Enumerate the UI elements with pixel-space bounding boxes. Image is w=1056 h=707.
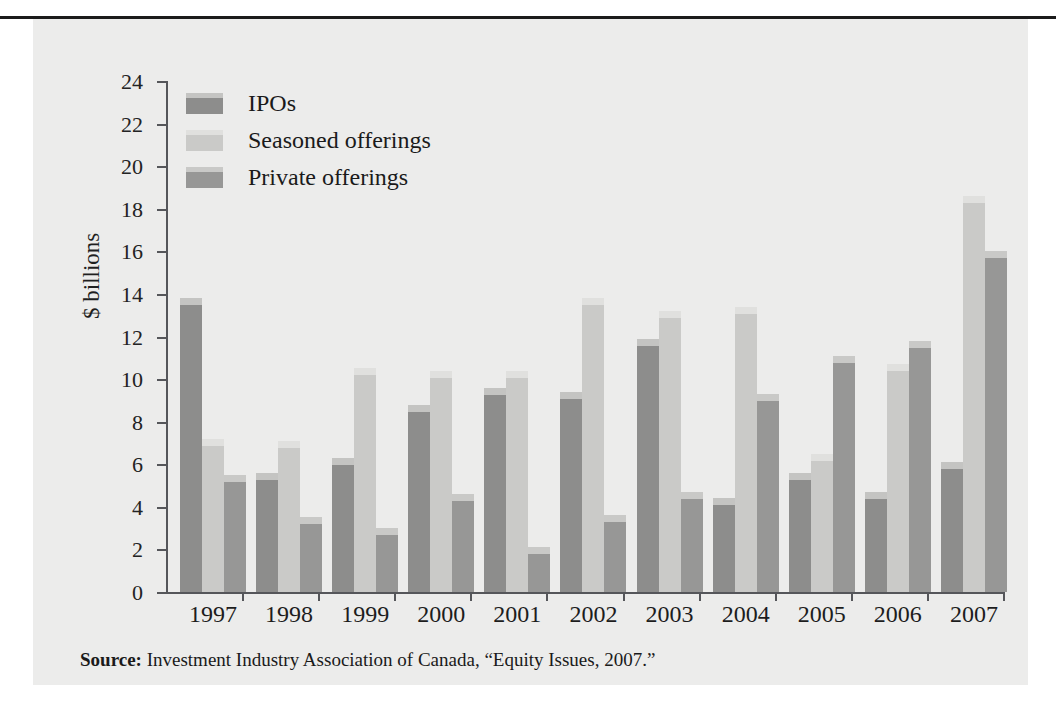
bar-2005-ipos — [789, 473, 811, 592]
bar-body — [909, 348, 931, 592]
x-tick-2000 — [470, 592, 472, 601]
bar-2000-private-offerings — [452, 494, 474, 592]
bar-body — [332, 465, 354, 592]
x-axis-label-2003: 2003 — [646, 601, 694, 628]
y-tick-label-10: 10 — [121, 367, 143, 393]
bar-body — [256, 480, 278, 592]
bar-body — [180, 305, 202, 592]
legend-swatch-icon — [186, 130, 223, 151]
x-tick-2007 — [1003, 592, 1005, 601]
y-tick-20: 20 — [157, 166, 166, 168]
bar-1997-ipos — [180, 298, 202, 592]
bar-body — [452, 501, 474, 592]
bar-body — [484, 395, 506, 592]
bar-group-2006 — [865, 81, 931, 592]
figure-container: $ billions 024681012141618202224 1997199… — [0, 0, 1056, 707]
bar-body — [300, 524, 322, 592]
bar-body — [963, 203, 985, 592]
legend-label: Private offerings — [248, 164, 408, 191]
chart-panel: $ billions 024681012141618202224 1997199… — [33, 19, 1028, 685]
y-tick-label-22: 22 — [121, 112, 143, 138]
legend-item-private-offerings[interactable]: Private offerings — [186, 159, 431, 196]
y-tick-label-18: 18 — [121, 197, 143, 223]
x-axis-label-1998: 1998 — [265, 601, 313, 628]
bar-2001-private-offerings — [528, 547, 550, 592]
y-tick-label-16: 16 — [121, 239, 143, 265]
y-tick-label-0: 0 — [132, 580, 143, 606]
y-tick-0: 0 — [157, 592, 166, 594]
legend-label: IPOs — [248, 90, 296, 117]
bar-body — [582, 305, 604, 592]
x-axis-label-2006: 2006 — [874, 601, 922, 628]
bar-1997-private-offerings — [224, 475, 246, 592]
bar-body — [202, 446, 224, 592]
legend-item-seasoned-offerings[interactable]: Seasoned offerings — [186, 122, 431, 159]
x-tick-1997 — [242, 592, 244, 601]
bar-2000-ipos — [408, 405, 430, 592]
bar-2005-private-offerings — [833, 356, 855, 592]
bar-group-2002 — [560, 81, 626, 592]
bar-2003-private-offerings — [681, 492, 703, 592]
source-citation: Investment Industry Association of Canad… — [142, 649, 655, 670]
x-tick-2001 — [546, 592, 548, 601]
bar-body — [376, 535, 398, 592]
bar-body — [865, 499, 887, 592]
y-tick-8: 8 — [157, 422, 166, 424]
y-tick-2: 2 — [157, 549, 166, 551]
bar-body — [224, 482, 246, 592]
bar-body — [560, 399, 582, 592]
x-axis-line — [166, 592, 1003, 594]
bar-2004-ipos — [713, 498, 735, 592]
y-tick-14: 14 — [157, 294, 166, 296]
bar-group-2001 — [484, 81, 550, 592]
bar-group-2007 — [941, 81, 1007, 592]
bar-body — [278, 448, 300, 592]
bar-1998-seasoned-offerings — [278, 441, 300, 592]
legend-swatch-cap — [186, 93, 223, 98]
bar-body — [985, 258, 1007, 592]
bar-1998-ipos — [256, 473, 278, 592]
bar-body — [604, 522, 626, 592]
bar-body — [941, 469, 963, 592]
x-tick-2006 — [927, 592, 929, 601]
y-tick-label-14: 14 — [121, 282, 143, 308]
bar-2001-seasoned-offerings — [506, 371, 528, 592]
y-tick-label-8: 8 — [132, 410, 143, 436]
bar-1999-ipos — [332, 458, 354, 592]
bar-2007-private-offerings — [985, 251, 1007, 592]
bar-group-2003 — [637, 81, 703, 592]
x-axis-label-2002: 2002 — [569, 601, 617, 628]
y-tick-24: 24 — [157, 81, 166, 83]
x-tick-2002 — [623, 592, 625, 601]
bar-body — [430, 378, 452, 592]
y-tick-18: 18 — [157, 209, 166, 211]
bar-group-2005 — [789, 81, 855, 592]
source-label: Source: — [80, 649, 142, 670]
legend-swatch-icon — [186, 167, 223, 188]
y-tick-16: 16 — [157, 251, 166, 253]
x-tick-1998 — [318, 592, 320, 601]
bar-body — [789, 480, 811, 592]
legend-swatch-icon — [186, 93, 223, 114]
y-tick-label-12: 12 — [121, 325, 143, 351]
bar-2001-ipos — [484, 388, 506, 592]
x-tick-2005 — [851, 592, 853, 601]
bar-body — [757, 401, 779, 592]
bar-body — [833, 363, 855, 592]
bar-1998-private-offerings — [300, 517, 322, 592]
bar-body — [735, 314, 757, 592]
bar-2002-seasoned-offerings — [582, 298, 604, 592]
bar-body — [354, 375, 376, 592]
x-axis-label-2000: 2000 — [417, 601, 465, 628]
bar-body — [408, 412, 430, 592]
bar-body — [528, 554, 550, 592]
x-axis-label-2004: 2004 — [722, 601, 770, 628]
bar-2007-ipos — [941, 462, 963, 592]
x-axis-label-2001: 2001 — [493, 601, 541, 628]
y-axis-line — [166, 81, 168, 594]
bar-body — [887, 371, 909, 592]
bar-body — [659, 318, 681, 592]
legend-item-ipos[interactable]: IPOs — [186, 85, 431, 122]
bar-2002-ipos — [560, 392, 582, 592]
bar-2000-seasoned-offerings — [430, 371, 452, 592]
